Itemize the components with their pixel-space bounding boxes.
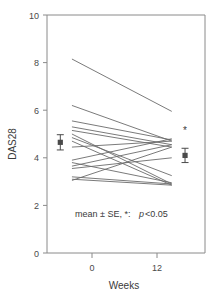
- patient-line: [72, 130, 172, 147]
- patient-lines-group: [72, 59, 172, 185]
- chart-canvas: 10 8 6 4 2 0 0 12 Weeks DAS28 * mean ± S…: [0, 0, 222, 296]
- y-axis-title: DAS28: [7, 128, 18, 160]
- y-tick-label-4: 4: [34, 153, 39, 163]
- mean-se-marker: [57, 135, 64, 150]
- stats-annotation: mean ± SE, *: p <0.05: [75, 209, 168, 219]
- y-axis-tick-labels: 10 8 6 4 2 0: [29, 11, 39, 259]
- y-axis-ticks: [43, 15, 47, 253]
- x-tick-label-0: 0: [89, 263, 94, 273]
- y-tick-label-2: 2: [34, 201, 39, 211]
- x-axis-tick-labels: 0 12: [89, 263, 162, 273]
- x-axis-title: Weeks: [109, 280, 139, 291]
- patient-line: [72, 59, 172, 111]
- mean-marker: [182, 153, 187, 158]
- x-axis-ticks: [92, 253, 157, 258]
- significance-asterisk: *: [183, 125, 187, 136]
- stats-note-plain: mean ± SE, *:: [75, 209, 130, 219]
- stats-note-pvalue-italic: p: [138, 209, 144, 219]
- patient-line: [72, 147, 172, 180]
- x-tick-label-12: 12: [152, 263, 162, 273]
- stats-note-tail: <0.05: [145, 209, 168, 219]
- y-tick-label-8: 8: [34, 58, 39, 68]
- mean-marker: [58, 140, 63, 145]
- y-tick-label-0: 0: [34, 249, 39, 259]
- das28-line-chart: 10 8 6 4 2 0 0 12 Weeks DAS28 * mean ± S…: [0, 0, 222, 296]
- y-tick-label-6: 6: [34, 106, 39, 116]
- mean-se-marker: *: [182, 125, 189, 162]
- y-tick-label-10: 10: [29, 11, 39, 21]
